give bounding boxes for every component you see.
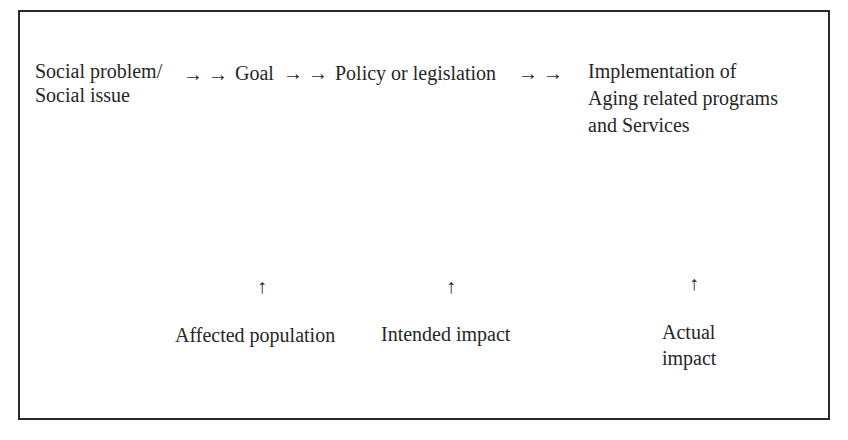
node-implementation-line3: and Services: [588, 113, 690, 138]
up-arrow-intended-icon: ↑: [446, 274, 456, 298]
node-social-problem-line1: Social problem/: [35, 59, 162, 84]
node-social-problem-line2: Social issue: [35, 83, 130, 108]
label-affected-population: Affected population: [175, 323, 335, 348]
flow-arrow-2-icon: → →: [283, 61, 328, 86]
label-actual-impact-line1: Actual: [662, 320, 715, 345]
up-arrow-actual-icon: ↑: [689, 271, 699, 295]
node-policy-legislation: Policy or legislation: [335, 61, 496, 86]
label-intended-impact: Intended impact: [381, 322, 510, 347]
flow-arrow-1-icon: → →: [183, 62, 228, 87]
node-goal: Goal: [235, 61, 274, 86]
node-implementation-line1: Implementation of: [588, 59, 736, 84]
node-implementation-line2: Aging related programs: [588, 86, 778, 111]
flow-arrow-3-icon: → →: [518, 61, 563, 86]
up-arrow-affected-icon: ↑: [257, 274, 267, 298]
label-actual-impact-line2: impact: [662, 346, 716, 371]
